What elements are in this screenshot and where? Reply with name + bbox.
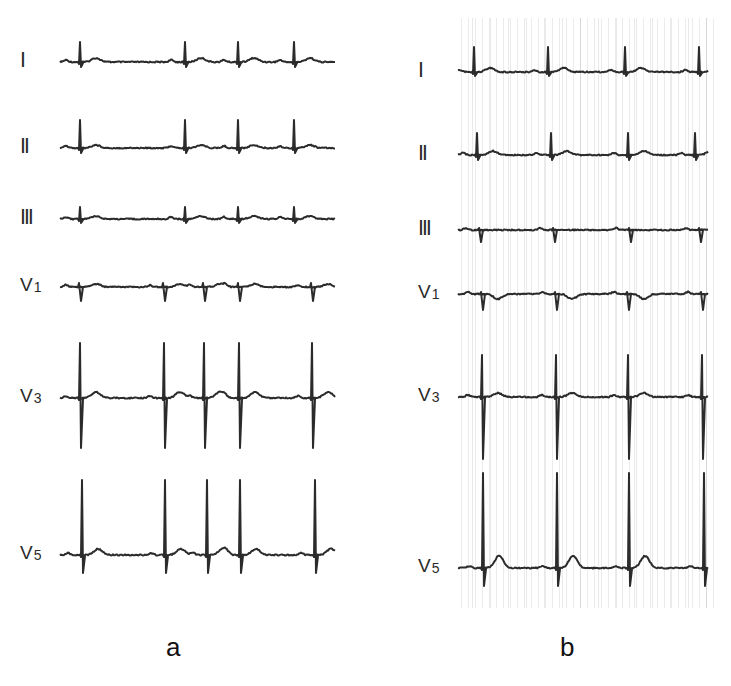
ecg-trace-b-lead-V3 (458, 355, 708, 459)
ecg-trace-a-lead-V1 (60, 283, 335, 301)
lead-label-text: Ⅰ (20, 49, 26, 71)
lead-label-text: Ⅱ (20, 135, 30, 157)
lead-label-b-0: Ⅰ (418, 60, 424, 80)
lead-label-b-3: V1 (418, 282, 439, 301)
ecg-trace-a-lead-Ⅲ (60, 207, 335, 223)
lead-label-subscript: 3 (432, 389, 440, 405)
lead-label-text: V (20, 385, 33, 406)
lead-label-a-1: Ⅱ (20, 136, 30, 156)
lead-label-text: V (418, 555, 431, 576)
ecg-trace-a-lead-Ⅰ (60, 42, 335, 67)
ecg-trace-b-lead-V1 (458, 291, 708, 310)
lead-label-a-2: Ⅲ (20, 207, 34, 227)
lead-label-text: Ⅱ (418, 142, 428, 164)
lead-label-text: Ⅰ (418, 59, 424, 81)
lead-label-text: V (418, 281, 431, 302)
ecg-trace-a-lead-Ⅱ (60, 120, 335, 153)
panel-a-caption: a (166, 632, 180, 663)
lead-label-a-5: V5 (20, 543, 41, 562)
panel-b-caption: b (560, 632, 574, 663)
ecg-trace-b-lead-V5 (458, 473, 708, 586)
lead-label-b-1: Ⅱ (418, 143, 428, 163)
lead-label-a-0: Ⅰ (20, 50, 26, 70)
ecg-trace-a-lead-V5 (60, 480, 335, 573)
lead-label-text: V (20, 542, 33, 563)
lead-label-b-2: Ⅲ (418, 218, 432, 238)
lead-label-subscript: 5 (432, 560, 440, 576)
lead-label-b-5: V5 (418, 556, 439, 575)
lead-label-a-4: V3 (20, 386, 41, 405)
lead-label-b-4: V3 (418, 385, 439, 404)
lead-label-subscript: 3 (34, 390, 42, 406)
lead-label-a-3: V1 (20, 275, 41, 294)
ecg-trace-b-lead-Ⅱ (458, 133, 708, 160)
lead-label-text: V (418, 384, 431, 405)
ecg-traces (0, 0, 731, 686)
ecg-trace-a-lead-V3 (60, 343, 335, 448)
ecg-trace-b-lead-Ⅰ (458, 47, 708, 76)
lead-label-subscript: 5 (34, 547, 42, 563)
lead-label-subscript: 1 (432, 286, 440, 302)
lead-label-text: Ⅲ (418, 217, 432, 239)
lead-label-text: V (20, 274, 33, 295)
lead-label-subscript: 1 (34, 279, 42, 295)
lead-label-text: Ⅲ (20, 206, 34, 228)
ecg-trace-b-lead-Ⅲ (458, 228, 708, 243)
